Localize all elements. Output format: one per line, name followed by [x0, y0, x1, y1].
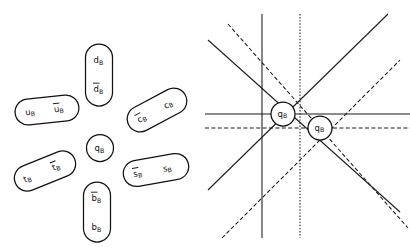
line-diagonal-up-right-right-node [222, 60, 400, 238]
figure-canvas: qB qB uB uB dB [0, 0, 410, 249]
capsule-top-outline [10, 147, 79, 195]
capsule-down-item-0: dB [94, 55, 104, 66]
capsule-bottom-item-1: bB [92, 222, 102, 233]
capsule-down[interactable]: dB dB [86, 44, 113, 106]
node-right[interactable]: qB [308, 116, 332, 140]
capsule-center-q[interactable]: qB [87, 135, 114, 162]
capsule-top[interactable]: tB tB [10, 147, 79, 195]
node-right-lines [205, 14, 410, 238]
capsule-strange-item-1: sB [162, 162, 172, 174]
capsule-up-outline [14, 94, 80, 127]
capsule-center-label: qB [95, 143, 105, 154]
capsule-strange[interactable]: sB sB [121, 151, 191, 188]
line-diagonal-up-right-left-node [208, 14, 388, 190]
capsule-charm-item-1: cB [161, 97, 174, 111]
capsule-bottom[interactable]: bB bB [84, 182, 111, 242]
node-left[interactable]: qB [271, 102, 295, 126]
capsule-strange-item-0: sB [132, 167, 142, 179]
capsule-up-item-1: uB [53, 103, 64, 115]
capsule-charm-item-0: cB [135, 111, 148, 125]
node-left-lines [205, 14, 410, 238]
capsule-top-item-0: tB [22, 172, 33, 185]
capsule-bottom-item-0: bB [92, 193, 102, 204]
capsule-down-outline [86, 44, 113, 106]
quark-capsule-cluster: uB uB dB dB cB cB [10, 44, 191, 242]
capsule-bottom-outline [84, 182, 111, 242]
capsule-up[interactable]: uB uB [14, 94, 80, 127]
capsule-down-item-1: dB [94, 84, 104, 95]
node-lattice-panel: qB qB [205, 14, 410, 238]
line-diagonal-down-right-left-node [208, 40, 400, 212]
capsule-up-item-0: uB [25, 106, 36, 118]
capsule-charm[interactable]: cB cB [123, 83, 192, 136]
capsule-charm-outline [123, 83, 192, 136]
